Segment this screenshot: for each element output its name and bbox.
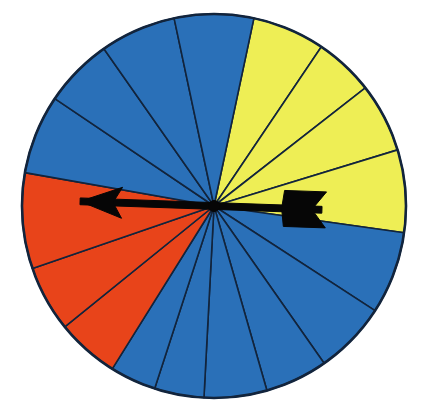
spinner-wheel-svg[interactable]	[0, 0, 423, 403]
spinner-hub[interactable]	[209, 201, 220, 212]
spinner-figure: Spinner wheel with colored sectors and p…	[0, 0, 423, 403]
